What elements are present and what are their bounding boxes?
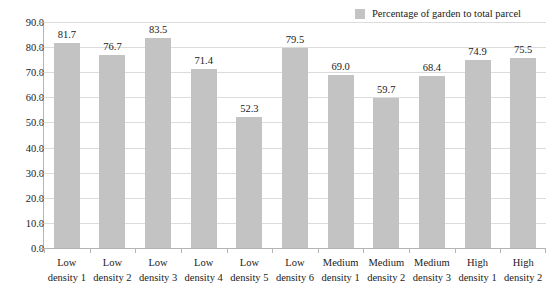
x-category-label: Lowdensity 5 bbox=[227, 255, 273, 285]
x-axis-category-labels: Lowdensity 1Lowdensity 2Lowdensity 3Lowd… bbox=[44, 255, 546, 288]
x-category-label-line1: Low bbox=[227, 255, 273, 270]
bar[interactable] bbox=[191, 69, 217, 248]
x-tick-mark bbox=[135, 248, 136, 253]
x-category-label-line1: Low bbox=[90, 255, 136, 270]
x-category-label-line2: density 4 bbox=[181, 270, 227, 285]
x-category-label-line2: density 6 bbox=[272, 270, 318, 285]
bar-slot: 75.5 bbox=[500, 0, 546, 249]
x-tick-mark bbox=[272, 248, 273, 253]
x-tick-mark bbox=[318, 248, 319, 253]
x-category-label-line2: density 1 bbox=[44, 270, 90, 285]
x-tick-mark bbox=[90, 248, 91, 253]
bar[interactable] bbox=[236, 117, 262, 248]
bar-slot: 83.5 bbox=[135, 0, 181, 249]
x-category-label-line1: Low bbox=[272, 255, 318, 270]
x-category-label-line2: density 1 bbox=[455, 270, 501, 285]
x-tick-mark bbox=[44, 248, 45, 253]
x-category-label: Lowdensity 1 bbox=[44, 255, 90, 285]
x-tick-mark bbox=[455, 248, 456, 253]
bar[interactable] bbox=[465, 60, 491, 248]
bar-slot: 52.3 bbox=[227, 0, 273, 249]
x-category-label: Mediumdensity 2 bbox=[363, 255, 409, 285]
bar-slot: 69.0 bbox=[318, 0, 364, 249]
x-category-label-line1: Medium bbox=[409, 255, 455, 270]
bar-value-label: 68.4 bbox=[423, 62, 441, 74]
y-axis-ticks: 90.080.070.060.050.040.030.020.010.00.0 bbox=[0, 0, 44, 288]
x-tick-mark bbox=[500, 248, 501, 253]
bar-slot: 71.4 bbox=[181, 0, 227, 249]
x-category-label-line2: density 3 bbox=[135, 270, 181, 285]
x-category-label: Lowdensity 3 bbox=[135, 255, 181, 285]
bar-value-label: 76.7 bbox=[103, 41, 121, 53]
bar-value-label: 71.4 bbox=[195, 55, 213, 67]
x-category-label-line2: density 2 bbox=[363, 270, 409, 285]
bar[interactable] bbox=[419, 76, 445, 248]
x-category-label-line2: density 2 bbox=[90, 270, 136, 285]
x-tick-mark bbox=[363, 248, 364, 253]
x-category-label: Mediumdensity 3 bbox=[409, 255, 455, 285]
x-category-label-line1: Medium bbox=[318, 255, 364, 270]
x-category-label-line1: Medium bbox=[363, 255, 409, 270]
bar-value-label: 74.9 bbox=[468, 46, 486, 58]
bar-value-label: 52.3 bbox=[240, 103, 258, 115]
bar[interactable] bbox=[282, 48, 308, 248]
bar[interactable] bbox=[145, 38, 171, 248]
x-category-label-line2: density 5 bbox=[227, 270, 273, 285]
x-category-label: Highdensity 2 bbox=[500, 255, 546, 285]
bar-value-label: 69.0 bbox=[331, 61, 349, 73]
x-category-label-line1: Low bbox=[44, 255, 90, 270]
x-category-label: Mediumdensity 1 bbox=[318, 255, 364, 285]
x-category-label: Lowdensity 2 bbox=[90, 255, 136, 285]
x-tick-mark bbox=[545, 248, 546, 253]
bar-value-label: 81.7 bbox=[58, 29, 76, 41]
x-category-label-line2: density 1 bbox=[318, 270, 364, 285]
bar[interactable] bbox=[328, 75, 354, 248]
x-axis-ticks bbox=[44, 248, 546, 253]
bar[interactable] bbox=[510, 58, 536, 248]
bar-slot: 59.7 bbox=[363, 0, 409, 249]
bar-value-label: 79.5 bbox=[286, 34, 304, 46]
bar[interactable] bbox=[373, 98, 399, 248]
bar[interactable] bbox=[54, 43, 80, 248]
x-category-label-line1: High bbox=[500, 255, 546, 270]
bar[interactable] bbox=[99, 55, 125, 248]
bar-chart: Percentage of garden to total parcel 90.… bbox=[0, 0, 552, 288]
x-category-label-line1: Low bbox=[181, 255, 227, 270]
x-category-label: Lowdensity 6 bbox=[272, 255, 318, 285]
x-category-label-line2: density 2 bbox=[500, 270, 546, 285]
bar-value-label: 75.5 bbox=[514, 44, 532, 56]
x-category-label-line2: density 3 bbox=[409, 270, 455, 285]
x-tick-mark bbox=[227, 248, 228, 253]
x-category-label-line1: Low bbox=[135, 255, 181, 270]
x-category-label-line1: High bbox=[455, 255, 501, 270]
bar-value-label: 83.5 bbox=[149, 24, 167, 36]
bar-slot: 74.9 bbox=[455, 0, 501, 249]
bar-value-label: 59.7 bbox=[377, 84, 395, 96]
x-tick-mark bbox=[181, 248, 182, 253]
bars-layer: 81.776.783.571.452.379.569.059.768.474.9… bbox=[44, 0, 546, 249]
bar-slot: 76.7 bbox=[90, 0, 136, 249]
bar-slot: 81.7 bbox=[44, 0, 90, 249]
bar-slot: 68.4 bbox=[409, 0, 455, 249]
bar-slot: 79.5 bbox=[272, 0, 318, 249]
x-category-label: Lowdensity 4 bbox=[181, 255, 227, 285]
x-category-label: Highdensity 1 bbox=[455, 255, 501, 285]
x-tick-mark bbox=[409, 248, 410, 253]
